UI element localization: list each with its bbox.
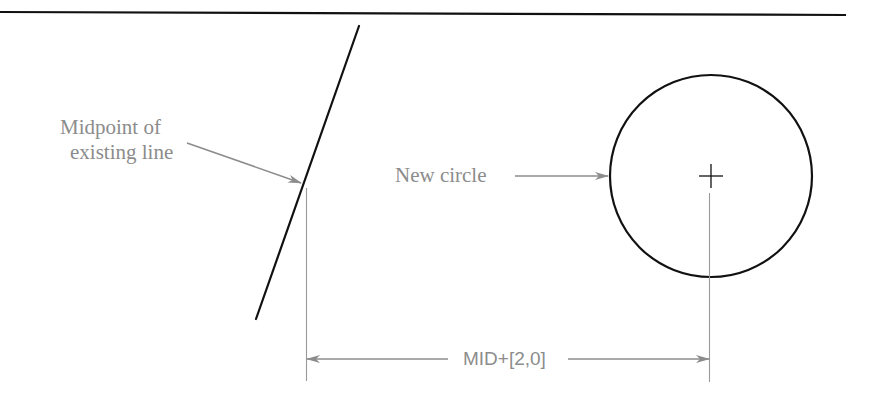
cad-diagram: Midpoint of existing line New circle MID…: [0, 0, 872, 408]
midpoint-label-line2: existing line: [70, 140, 173, 164]
top-rule: [0, 12, 846, 15]
midpoint-label-line1: Midpoint of: [60, 115, 161, 139]
new-circle-label: New circle: [395, 163, 487, 187]
diagram-svg: [0, 0, 872, 408]
dimension-label: MID+[2,0]: [463, 348, 546, 370]
center-mark-icon: [699, 164, 723, 188]
midpoint-callout-arrow: [187, 143, 301, 183]
